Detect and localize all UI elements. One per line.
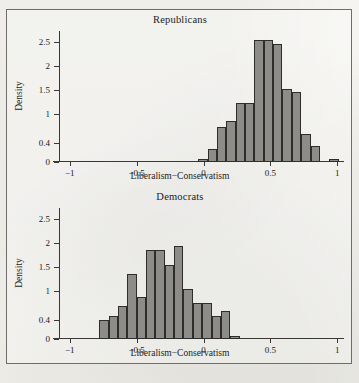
histogram-bars-republicans (59, 31, 344, 162)
y-tick-label: 0 (46, 334, 51, 344)
histogram-bar (226, 121, 235, 162)
chart-panel-republicans: Republicans −1−0.500.51 Density 00.411.5… (7, 11, 353, 187)
y-tick-label: 2.5 (39, 37, 50, 47)
histogram-bar (212, 316, 221, 339)
x-axis-label-bottom: Liberalism−Conservatism (7, 348, 353, 358)
histogram-bar (292, 92, 301, 162)
y-tick: 2 (54, 66, 59, 67)
y-tick-label: 0 (46, 157, 51, 167)
histogram-bar (146, 250, 155, 339)
y-tick: 1 (54, 291, 59, 292)
y-tick-label: 0.4 (39, 315, 50, 325)
histogram-bar (273, 44, 282, 162)
figure-caption (6, 370, 352, 382)
y-tick-label: 1.5 (39, 85, 50, 95)
plot-area-bottom: 00.411.522.5 (59, 208, 344, 339)
y-tick-label: 0.4 (39, 138, 50, 148)
y-tick-label: 2 (46, 61, 51, 71)
y-tick: 2 (54, 243, 59, 244)
histogram-bar (311, 146, 320, 162)
y-tick: 0.4 (54, 143, 59, 144)
histogram-bar (174, 246, 183, 339)
histogram-bar (282, 89, 291, 162)
histogram-bar (155, 250, 164, 339)
y-axis-label-top: Density (14, 81, 24, 111)
histogram-bar (230, 336, 239, 339)
histogram-bars-democrats (59, 208, 344, 339)
y-tick-label: 2.5 (39, 214, 50, 224)
figure-frame: Republicans −1−0.500.51 Density 00.411.5… (6, 9, 352, 364)
y-tick: 2.5 (54, 42, 59, 43)
histogram-bar (127, 274, 136, 340)
y-tick-label: 1 (46, 109, 51, 119)
histogram-bar (208, 149, 217, 162)
y-axis-label-bottom: Density (14, 258, 24, 288)
histogram-bar (264, 40, 273, 162)
histogram-bar (198, 159, 207, 162)
histogram-bar (99, 320, 108, 339)
histogram-bar (109, 316, 118, 339)
plot-area-top: 00.411.522.5 (59, 31, 344, 162)
chart-panel-democrats: Democrats −1−0.500.51 Density 00.411.522… (7, 188, 353, 364)
chart-title-republicans: Republicans (7, 14, 353, 25)
histogram-bar (329, 159, 338, 162)
histogram-bar (165, 265, 174, 339)
y-tick-label: 1 (46, 286, 51, 296)
histogram-bar (183, 289, 192, 339)
y-tick-label: 1.5 (39, 262, 50, 272)
x-axis-label-top: Liberalism−Conservatism (7, 171, 353, 181)
y-tick: 0 (54, 339, 59, 340)
histogram-bar (217, 127, 226, 162)
y-tick: 2.5 (54, 219, 59, 220)
histogram-bar (118, 306, 127, 339)
histogram-bar (137, 297, 146, 339)
y-tick: 1 (54, 114, 59, 115)
histogram-bar (245, 103, 254, 162)
histogram-bar (202, 303, 211, 339)
y-tick: 1.5 (54, 267, 59, 268)
y-tick: 0 (54, 162, 59, 163)
y-tick: 0.4 (54, 320, 59, 321)
histogram-bar (221, 311, 230, 339)
histogram-bar (254, 40, 263, 162)
chart-title-democrats: Democrats (7, 191, 353, 202)
y-tick-label: 2 (46, 238, 51, 248)
y-tick: 1.5 (54, 90, 59, 91)
histogram-bar (301, 134, 310, 162)
histogram-bar (193, 303, 202, 339)
histogram-bar (236, 103, 245, 162)
